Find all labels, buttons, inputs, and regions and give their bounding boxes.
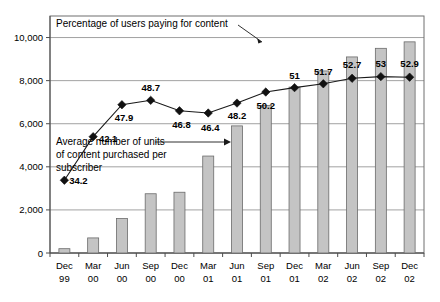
y-tick-label: 0 [38,248,43,259]
x-tick-label-month: Jun [114,260,129,271]
annotation-units-label-line-1: Average number of units [56,136,165,147]
chart-container: 02,0004,0006,0008,00010,000 Dec99Mar00Ju… [0,0,440,302]
y-tick-label: 4,000 [19,161,43,172]
data-label-dec-02: 52.9 [400,58,419,69]
x-tick-label-month: Dec [286,260,303,271]
x-tick-label-year: 00 [145,273,156,284]
data-label-jun-02: 52.7 [343,59,362,70]
x-tick-label-year: 99 [59,273,70,284]
x-tick-label-month: Mar [85,260,101,271]
bar-sep-01 [260,105,271,253]
x-tick-label-month: Mar [200,260,216,271]
x-tick-label-year: 01 [260,273,271,284]
x-tick-label-year: 01 [203,273,214,284]
x-tick-label-year: 02 [318,273,329,284]
x-tick-label-year: 00 [117,273,128,284]
data-label-jun-00: 47.9 [115,112,134,123]
y-tick-label: 2,000 [19,204,43,215]
data-label-dec-00: 46.8 [172,119,191,130]
chart-canvas: 02,0004,0006,0008,00010,000 Dec99Mar00Ju… [0,0,440,302]
x-tick-label-month: Dec [171,260,188,271]
bar-mar-00 [88,238,99,253]
data-label-dec-01: 51 [289,70,300,81]
bar-mar-02 [318,71,329,253]
bar-jun-02 [347,57,358,253]
data-label-mar-02: 51.7 [314,66,333,77]
bar-dec-01 [289,87,300,253]
bar-jun-01 [232,126,243,253]
annotation-units-label-line-3: subscriber [56,162,103,173]
x-tick-label-year: 01 [289,273,300,284]
x-tick-label-month: Jun [229,260,244,271]
x-tick-label-month: Jun [344,260,359,271]
x-tick-label-year: 02 [376,273,387,284]
bar-mar-01 [203,156,214,253]
x-tick-label-month: Sep [257,260,274,271]
annotation-units-label-line-2: of content purchased per [56,149,167,160]
x-tick-label-month: Sep [372,260,389,271]
x-tick-label-month: Dec [56,260,73,271]
data-label-mar-01: 46.4 [201,122,220,133]
annotation-percentage-label: Percentage of users paying for content [56,18,228,29]
y-tick-label: 8,000 [19,75,43,86]
data-label-sep-02: 53 [376,58,387,69]
x-tick-label-month: Sep [142,260,159,271]
x-tick-label-year: 01 [232,273,243,284]
bar-dec-99 [59,249,70,253]
y-tick-label: 10,000 [14,32,43,43]
x-tick-label-year: 00 [88,273,99,284]
bar-sep-00 [145,194,156,253]
bar-dec-00 [174,192,185,253]
data-label-jun-01: 48.2 [228,110,247,121]
data-label-sep-00: 48.7 [141,82,160,93]
y-tick-label: 6,000 [19,118,43,129]
data-label-dec-99: 34.2 [69,175,88,186]
x-tick-label-year: 02 [347,273,358,284]
x-tick-label-year: 00 [174,273,185,284]
x-tick-label-month: Dec [401,260,418,271]
x-tick-label-month: Mar [315,260,331,271]
bar-jun-00 [116,219,127,253]
data-label-sep-01: 50.2 [257,100,276,111]
x-tick-label-year: 02 [404,273,415,284]
